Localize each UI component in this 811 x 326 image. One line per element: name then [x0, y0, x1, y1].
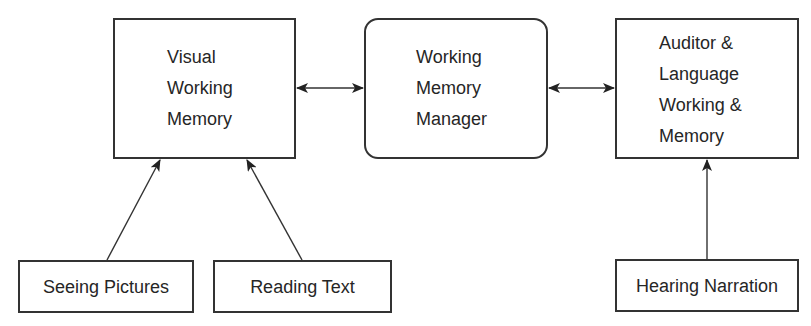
- auditory-language-working-memory-node: Auditor & Language Working & Memory: [615, 18, 799, 159]
- visual-working-memory-label: Visual Working Memory: [167, 42, 233, 135]
- label-line: Working &: [659, 90, 742, 121]
- working-memory-manager-label: Working Memory Manager: [416, 42, 487, 135]
- label-line: Working: [167, 73, 233, 104]
- label-line: Language: [659, 59, 742, 90]
- hearing-narration-label: Hearing Narration: [617, 276, 797, 296]
- arrow-seeing-visual: [107, 160, 160, 260]
- label-line: Memory: [659, 121, 742, 152]
- label-line: Manager: [416, 104, 487, 135]
- seeing-pictures-label: Seeing Pictures: [20, 277, 192, 297]
- label-line: Auditor &: [659, 28, 742, 59]
- reading-text-label: Reading Text: [215, 277, 390, 297]
- label-line: Memory: [416, 73, 487, 104]
- label-line: Memory: [167, 104, 233, 135]
- label-line: Visual: [167, 42, 233, 73]
- hearing-narration-node: Hearing Narration: [615, 259, 799, 312]
- working-memory-manager-node: Working Memory Manager: [364, 18, 548, 159]
- label-line: Working: [416, 42, 487, 73]
- visual-working-memory-node: Visual Working Memory: [113, 18, 296, 159]
- diagram-canvas: Visual Working Memory Working Memory Man…: [0, 0, 811, 326]
- arrow-reading-visual: [247, 160, 302, 260]
- auditory-language-working-memory-label: Auditor & Language Working & Memory: [659, 28, 742, 152]
- seeing-pictures-node: Seeing Pictures: [18, 260, 194, 313]
- reading-text-node: Reading Text: [213, 260, 392, 313]
